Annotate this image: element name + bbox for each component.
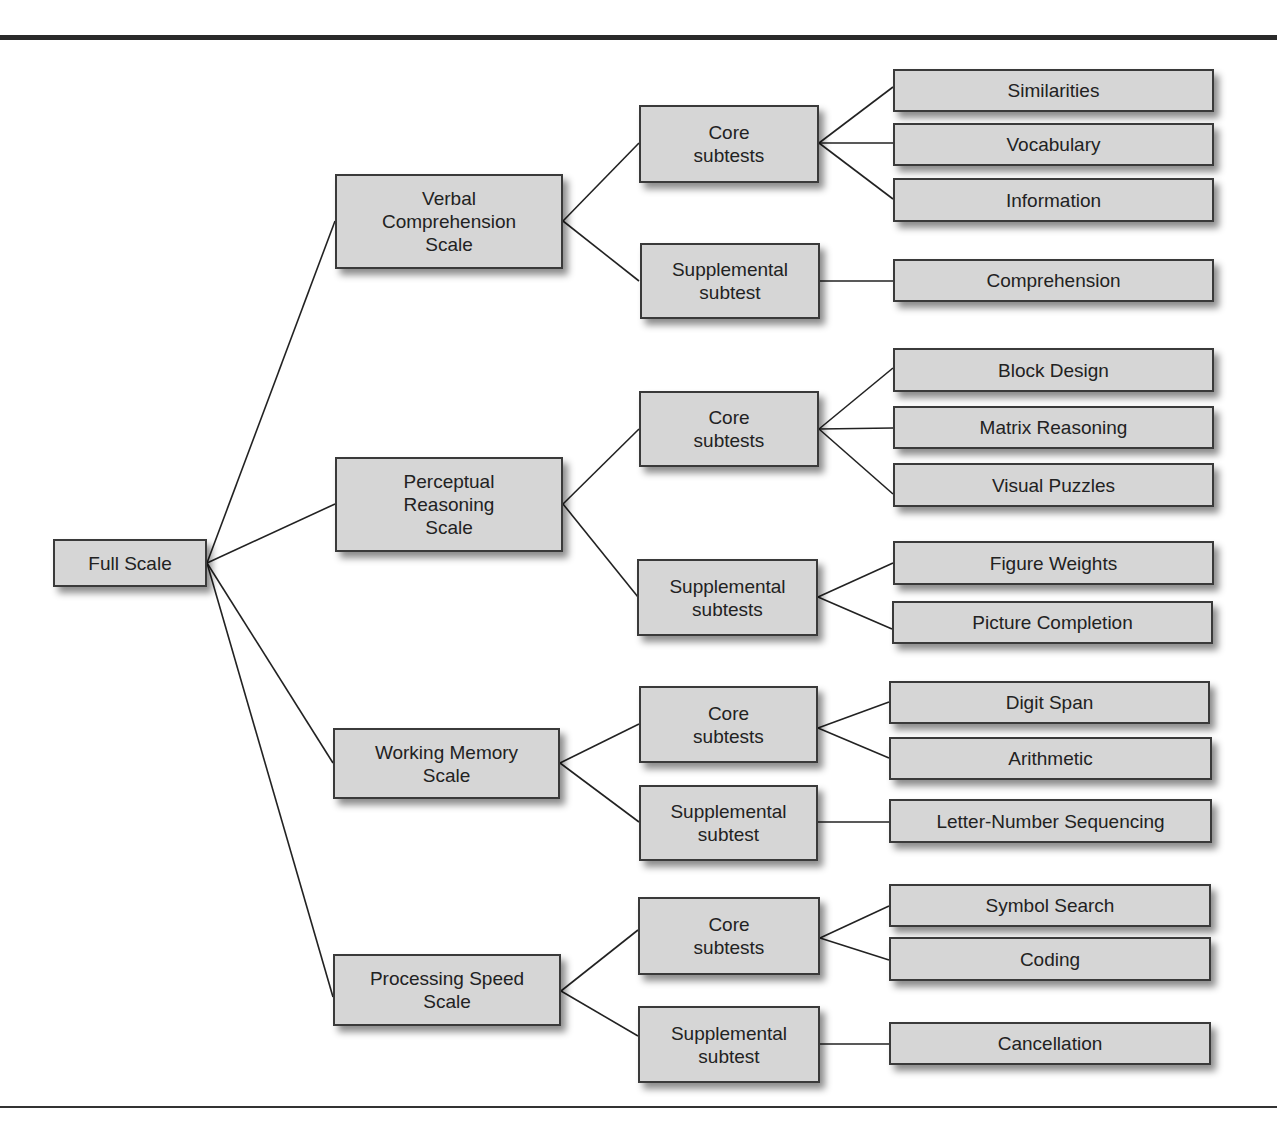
node-verbal-comprehension-scale: Verbal Comprehension Scale — [335, 174, 563, 269]
node-picture-completion: Picture Completion — [892, 601, 1213, 644]
node-perceptual-core-subtests: Core subtests — [639, 391, 819, 467]
node-working-memory-supplemental-subtest: Supplemental subtest — [639, 785, 818, 861]
node-information: Information — [893, 178, 1214, 222]
node-processing-speed-scale: Processing Speed Scale — [333, 954, 561, 1026]
node-full-scale: Full Scale — [53, 539, 207, 587]
node-comprehension: Comprehension — [893, 259, 1214, 302]
node-perceptual-supplemental-subtests: Supplemental subtests — [637, 559, 818, 636]
node-similarities: Similarities — [893, 69, 1214, 112]
node-matrix-reasoning: Matrix Reasoning — [893, 406, 1214, 449]
node-symbol-search: Symbol Search — [889, 884, 1211, 927]
node-processing-speed-supplemental-subtest: Supplemental subtest — [638, 1006, 820, 1083]
bottom-rule — [0, 1106, 1277, 1108]
node-block-design: Block Design — [893, 348, 1214, 392]
node-cancellation: Cancellation — [889, 1022, 1211, 1065]
node-processing-speed-core-subtests: Core subtests — [638, 897, 820, 975]
node-letter-number-sequencing: Letter-Number Sequencing — [889, 799, 1212, 843]
node-coding: Coding — [889, 937, 1211, 981]
node-perceptual-reasoning-scale: Perceptual Reasoning Scale — [335, 457, 563, 552]
node-vocabulary: Vocabulary — [893, 123, 1214, 166]
node-verbal-supplemental-subtest: Supplemental subtest — [640, 243, 820, 319]
node-working-memory-scale: Working Memory Scale — [333, 728, 560, 799]
node-figure-weights: Figure Weights — [893, 541, 1214, 585]
node-arithmetic: Arithmetic — [889, 737, 1212, 780]
node-visual-puzzles: Visual Puzzles — [893, 463, 1214, 507]
node-working-memory-core-subtests: Core subtests — [639, 686, 818, 763]
node-digit-span: Digit Span — [889, 681, 1210, 724]
node-verbal-core-subtests: Core subtests — [639, 105, 819, 183]
